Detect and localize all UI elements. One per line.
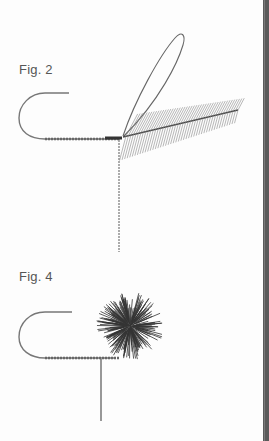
figure-4-illustration	[0, 0, 263, 441]
page-edge-highlight	[264, 0, 265, 441]
hackle-ball-icon	[97, 293, 163, 359]
document-page: Fig. 2 Fig. 4	[0, 0, 263, 441]
hook-icon	[19, 312, 115, 358]
